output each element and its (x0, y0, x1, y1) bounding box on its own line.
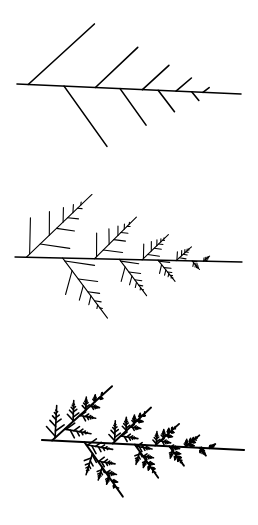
fern-iteration-2 (15, 194, 242, 318)
fern-iteration-3 (42, 386, 244, 496)
fern-fractal-figure (0, 0, 258, 525)
fern-iteration-1 (17, 24, 241, 146)
fern-diagram (0, 0, 258, 525)
